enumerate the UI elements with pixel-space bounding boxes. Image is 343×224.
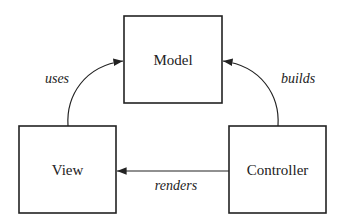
edge-renders-label: renders: [155, 178, 198, 193]
edge-builds-label: builds: [281, 71, 316, 86]
edge-builds-arrow: [223, 61, 278, 126]
edge-renders: renders: [117, 171, 229, 193]
node-controller: Controller: [229, 126, 326, 213]
node-controller-label: Controller: [247, 162, 309, 178]
node-model: Model: [124, 16, 222, 103]
node-model-label: Model: [153, 52, 192, 68]
node-view: View: [19, 126, 116, 213]
edge-builds: builds: [223, 61, 316, 126]
mvc-diagram: Model View Controller uses builds render…: [0, 0, 343, 224]
edge-uses-label: uses: [45, 71, 70, 86]
edge-uses: uses: [45, 61, 123, 126]
edge-uses-arrow: [68, 61, 123, 126]
node-view-label: View: [52, 162, 84, 178]
